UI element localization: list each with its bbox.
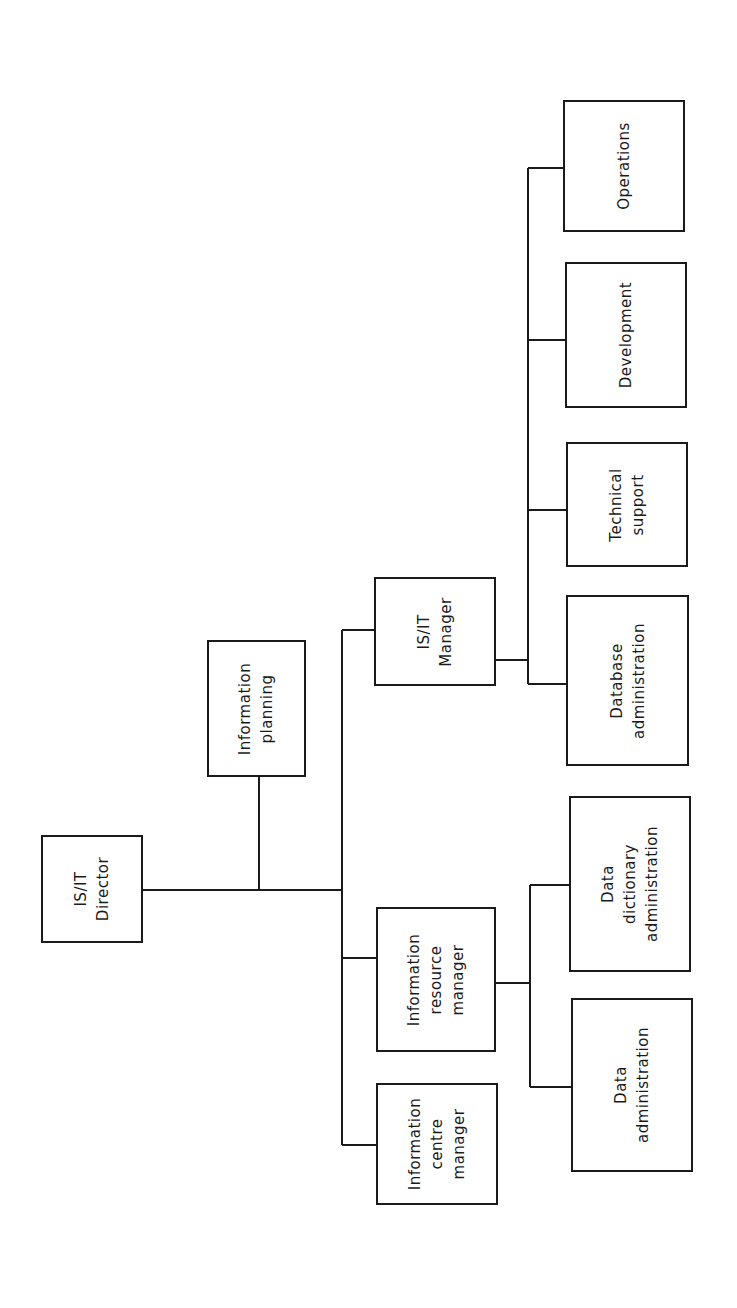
node-database-administration: Database administration (566, 595, 689, 766)
node-label: IS/IT Manager (413, 597, 457, 666)
node-data-administration: Data administration (571, 998, 693, 1172)
node-label: Data administration (610, 1027, 654, 1143)
node-operations: Operations (563, 100, 685, 232)
node-label: Technical support (605, 468, 649, 541)
node-isit-director: IS/IT Director (41, 835, 143, 943)
node-label: Information resource manager (403, 933, 469, 1025)
node-data-dictionary-administration: Data dictionary administration (569, 796, 691, 972)
org-chart: IS/IT Director Information planning IS/I… (0, 0, 737, 1308)
node-label: Development (615, 282, 637, 388)
node-label: IS/IT Director (70, 857, 114, 921)
node-information-planning: Information planning (207, 640, 306, 777)
node-isit-manager: IS/IT Manager (374, 577, 496, 686)
node-label: Database administration (606, 623, 650, 739)
node-development: Development (565, 262, 687, 408)
node-label: Information centre manager (404, 1098, 470, 1190)
node-label: Information planning (235, 662, 279, 754)
node-label: Operations (613, 122, 635, 209)
node-information-centre-manager: Information centre manager (376, 1083, 498, 1205)
node-label: Data dictionary administration (597, 826, 663, 942)
node-technical-support: Technical support (566, 442, 688, 567)
node-information-resource-manager: Information resource manager (376, 907, 496, 1052)
